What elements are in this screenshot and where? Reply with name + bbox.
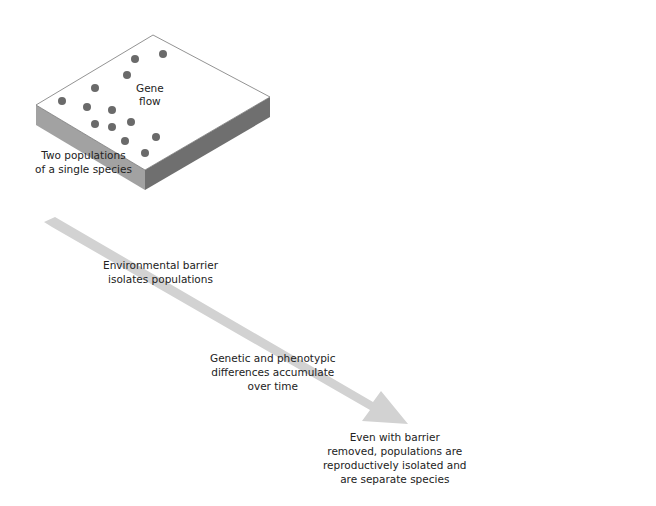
stage3-caption: Genetic and phenotypic differences accum… bbox=[210, 351, 336, 393]
speciation-diagram: Gene flow Two populations of a single sp… bbox=[0, 0, 656, 506]
stage2-caption: Environmental barrier isolates populatio… bbox=[103, 258, 218, 286]
gene-flow-label: Gene flow bbox=[136, 82, 164, 108]
stage1-caption: Two populations of a single species bbox=[35, 148, 132, 176]
stage4-caption: Even with barrier removed, populations a… bbox=[323, 430, 467, 486]
